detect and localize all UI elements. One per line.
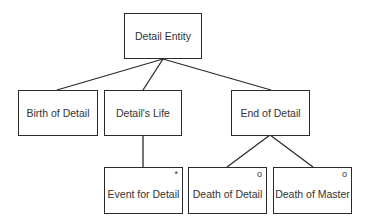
node-end-of-detail: End of Detail (231, 90, 310, 136)
node-detail-entity: Detail Entity (124, 13, 202, 59)
node-birth-of-detail: Birth of Detail (18, 90, 98, 136)
node-death-of-detail: o Death of Detail (188, 167, 267, 214)
node-label: Death of Master (275, 182, 350, 200)
selection-marker-icon: o (257, 170, 262, 179)
node-death-of-master: o Death of Master (273, 167, 352, 214)
selection-marker-icon: o (342, 170, 347, 179)
node-label: Detail's Life (116, 107, 170, 119)
node-event-for-detail: * Event for Detail (104, 167, 183, 214)
link-root-birth (57, 59, 163, 90)
link-end-death-detail (227, 135, 270, 167)
node-label: Death of Detail (193, 182, 262, 200)
node-label: Birth of Detail (26, 107, 89, 119)
node-label: Event for Detail (108, 182, 180, 200)
node-details-life: Detail's Life (104, 90, 182, 136)
node-label: End of Detail (240, 107, 300, 119)
iteration-marker-icon: * (174, 170, 178, 179)
link-end-death-master (270, 135, 313, 167)
node-label: Detail Entity (135, 30, 191, 42)
link-root-end (163, 59, 271, 90)
